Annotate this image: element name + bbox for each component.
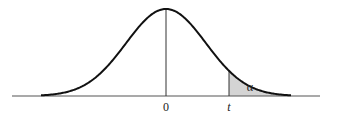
shaded-tail-area: [229, 71, 291, 96]
zero-tick-label: 0: [163, 101, 169, 113]
alpha-label: α: [247, 81, 253, 93]
t-tick-label: t: [227, 101, 230, 113]
t-distribution-diagram: [0, 0, 346, 115]
